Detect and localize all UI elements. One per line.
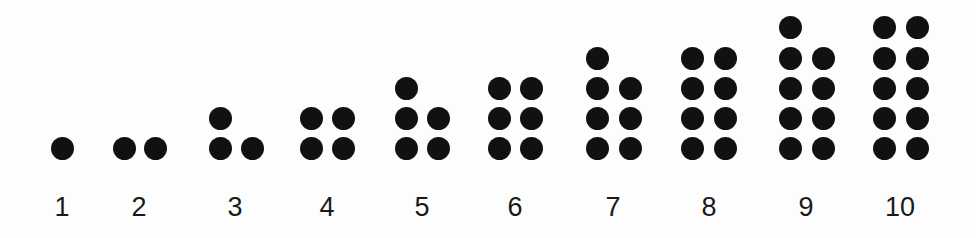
- dot-icon: [714, 107, 737, 130]
- dot-icon: [488, 107, 511, 130]
- dot-icon: [873, 16, 896, 39]
- dot-icon: [873, 47, 896, 70]
- dot-icon: [395, 77, 418, 100]
- dot-icon: [681, 77, 704, 100]
- dot-icon: [812, 107, 835, 130]
- dot-icon: [619, 107, 642, 130]
- dot-icon: [395, 137, 418, 160]
- dot-icon: [332, 107, 355, 130]
- dot-icon: [51, 137, 74, 160]
- dot-icon: [812, 47, 835, 70]
- dot-icon: [520, 77, 543, 100]
- dot-icon: [144, 137, 167, 160]
- dot-icon: [812, 137, 835, 160]
- dot-icon: [619, 137, 642, 160]
- dot-icon: [714, 137, 737, 160]
- number-label-9: 9: [776, 192, 836, 223]
- number-label-10: 10: [870, 192, 930, 223]
- dot-icon: [681, 107, 704, 130]
- number-label-1: 1: [32, 192, 92, 223]
- dot-icon: [779, 107, 802, 130]
- dot-icon: [586, 107, 609, 130]
- dot-icon: [332, 137, 355, 160]
- dot-icon: [395, 107, 418, 130]
- dot-icon: [906, 77, 929, 100]
- number-label-4: 4: [297, 192, 357, 223]
- number-label-5: 5: [392, 192, 452, 223]
- dot-icon: [906, 16, 929, 39]
- dot-icon: [520, 107, 543, 130]
- dot-icon: [779, 77, 802, 100]
- dot-icon: [209, 137, 232, 160]
- dot-icon: [209, 107, 232, 130]
- dot-number-diagram: 1 2 3 4 5 6 7 8 9 10: [0, 0, 976, 238]
- dot-icon: [812, 77, 835, 100]
- number-label-3: 3: [205, 192, 265, 223]
- number-label-2: 2: [109, 192, 169, 223]
- dot-icon: [520, 137, 543, 160]
- dot-icon: [586, 47, 609, 70]
- dot-icon: [906, 47, 929, 70]
- dot-icon: [488, 77, 511, 100]
- number-label-7: 7: [583, 192, 643, 223]
- dot-icon: [873, 137, 896, 160]
- dot-icon: [779, 16, 802, 39]
- dot-icon: [681, 47, 704, 70]
- dot-icon: [779, 47, 802, 70]
- dot-icon: [488, 137, 511, 160]
- dot-icon: [906, 137, 929, 160]
- dot-icon: [714, 77, 737, 100]
- dot-icon: [427, 137, 450, 160]
- dot-icon: [619, 77, 642, 100]
- dot-icon: [873, 77, 896, 100]
- number-label-8: 8: [679, 192, 739, 223]
- dot-icon: [681, 137, 704, 160]
- dot-icon: [779, 137, 802, 160]
- dot-icon: [300, 107, 323, 130]
- dot-icon: [586, 137, 609, 160]
- dot-icon: [113, 137, 136, 160]
- dot-icon: [300, 137, 323, 160]
- dot-icon: [906, 107, 929, 130]
- dot-icon: [714, 47, 737, 70]
- number-label-6: 6: [485, 192, 545, 223]
- dot-icon: [586, 77, 609, 100]
- dot-icon: [241, 137, 264, 160]
- dot-icon: [873, 107, 896, 130]
- dot-icon: [427, 107, 450, 130]
